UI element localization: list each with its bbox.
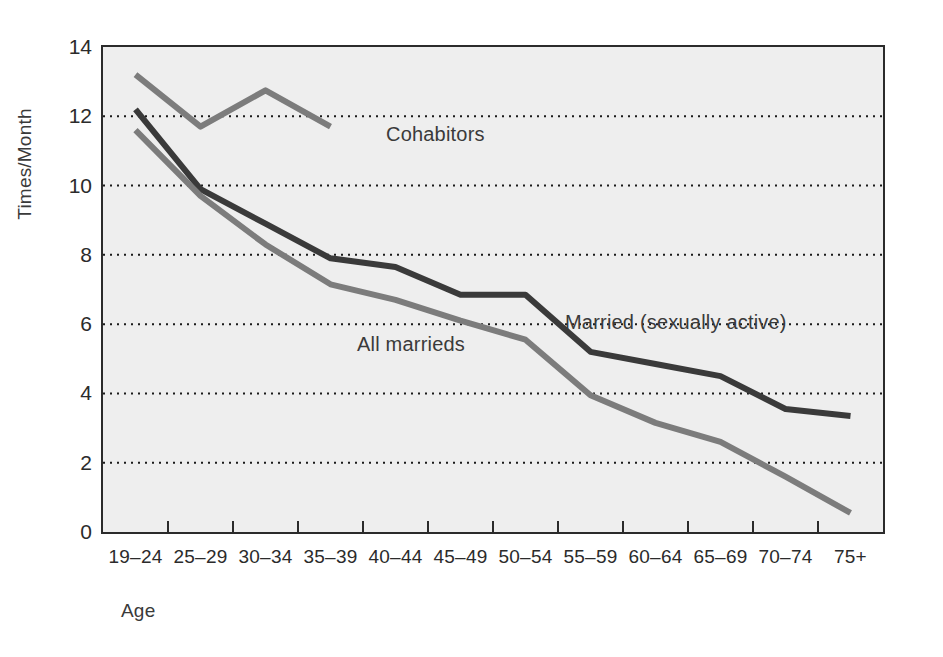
series-line-married-sexually-active [136,109,851,416]
y-axis-tick-label: 8 [50,243,92,267]
y-axis-tick-labels: 02468101214 [42,45,92,534]
plot-area: Cohabitors Married (sexually active) All… [101,45,885,534]
x-axis-tick-label: 65–69 [694,546,748,568]
y-axis-tick-label: 14 [50,35,92,59]
x-axis-title: Age [121,600,155,622]
x-axis-tick-labels: 19–2425–2930–3435–3940–4445–4950–5455–59… [101,546,885,576]
y-axis-tick-label: 0 [50,520,92,544]
series-label-married-sexually-active: Married (sexually active) [565,311,787,334]
y-axis-tick-label: 6 [50,312,92,336]
y-axis-tick-label: 10 [50,174,92,198]
x-axis-tick-label: 40–44 [369,546,423,568]
series-label-cohabitors: Cohabitors [386,123,485,146]
x-axis-tick-label: 25–29 [174,546,228,568]
x-axis-tick-label: 75+ [834,546,867,568]
x-axis-tick-label: 50–54 [499,546,553,568]
y-axis-tick-label: 12 [50,104,92,128]
x-axis-tick-label: 19–24 [109,546,163,568]
series-lines [136,75,851,513]
series-label-all-marrieds: All marrieds [357,333,465,356]
x-axis-ticks [168,521,818,532]
y-axis-tick-label: 4 [50,381,92,405]
x-axis-tick-label: 60–64 [629,546,683,568]
y-axis-title: Times/Month [14,74,42,254]
chart-figure: Times/Month 02468101214 Cohabitors Marri… [0,0,943,657]
y-axis-tick-label: 2 [50,451,92,475]
x-axis-tick-label: 70–74 [759,546,813,568]
x-axis-tick-label: 30–34 [239,546,293,568]
x-axis-tick-label: 55–59 [564,546,618,568]
x-axis-tick-label: 35–39 [304,546,358,568]
series-line-cohabitors [136,75,331,127]
chart-canvas [103,47,883,532]
x-axis-tick-label: 45–49 [434,546,488,568]
gridlines [103,116,883,462]
